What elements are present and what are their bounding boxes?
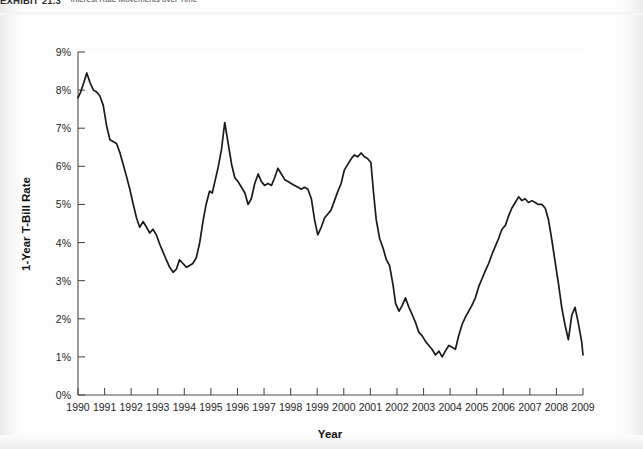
y-tick-label: 9% (56, 46, 71, 58)
x-tick-label: 2003 (412, 401, 436, 413)
x-tick-label: 2004 (438, 401, 462, 413)
x-tick-label: 2006 (492, 401, 516, 413)
y-axis-title: 1-Year T-Bill Rate (20, 177, 32, 271)
exhibit-caption: EXHIBIT 21.3 Interest Rate Movements ove… (0, 0, 643, 9)
plot-area-background (78, 52, 583, 395)
x-tick-label: 1991 (93, 401, 117, 413)
x-tick-label: 2009 (571, 401, 595, 413)
exhibit-caption-label: EXHIBIT 21.3 (0, 0, 61, 6)
y-tick-label: 6% (56, 160, 71, 172)
y-tick-label: 5% (56, 198, 71, 210)
exhibit-caption-text: Interest Rate Movements over Time (70, 0, 197, 4)
x-tick-label: 2008 (545, 401, 569, 413)
y-tick-label: 0% (56, 389, 71, 401)
chart-svg: 0%1%2%3%4%5%6%7%8%9% 1990199119921993199… (0, 16, 643, 449)
x-tick-label: 1993 (146, 401, 170, 413)
x-tick-label: 2005 (465, 401, 489, 413)
x-tick-label: 1996 (226, 401, 250, 413)
x-tick-label: 1995 (199, 401, 223, 413)
x-tick-label: 1999 (306, 401, 330, 413)
x-tick-label: 2000 (332, 401, 356, 413)
x-tick-label: 2002 (385, 401, 409, 413)
y-tick-label: 7% (56, 122, 71, 134)
y-tick-label: 3% (56, 275, 71, 287)
x-tick-label: 2007 (518, 401, 542, 413)
x-axis-title: Year (318, 428, 343, 440)
y-tick-label: 8% (56, 84, 71, 96)
x-tick-label: 1994 (173, 401, 197, 413)
x-tick-label: 2001 (359, 401, 383, 413)
x-tick-label: 1992 (119, 401, 143, 413)
x-tick-label: 1998 (279, 401, 303, 413)
caption-divider-rule (0, 12, 643, 15)
line-chart-figure: 0%1%2%3%4%5%6%7%8%9% 1990199119921993199… (0, 16, 643, 449)
x-tick-label: 1997 (252, 401, 276, 413)
y-tick-label: 4% (56, 237, 71, 249)
x-tick-label: 1990 (66, 401, 90, 413)
y-tick-label: 1% (56, 351, 71, 363)
y-tick-label: 2% (56, 313, 71, 325)
